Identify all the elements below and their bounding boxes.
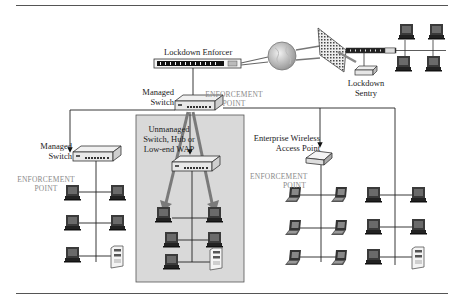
- desktop-icon: [410, 219, 427, 235]
- managed-switch-left-label: Managed Switch: [38, 141, 72, 161]
- enforcement-point-line1: ENFORCEMENT: [202, 90, 266, 99]
- enforcement-point-line2: POINT: [14, 184, 78, 193]
- enforcement-point-label-left: ENFORCEMENT POINT: [14, 175, 78, 193]
- desktop-icon: [365, 187, 382, 203]
- desktop-icon: [365, 249, 382, 265]
- desktop-icon: [365, 219, 382, 235]
- managed-switch-left-label-line2: Switch: [38, 151, 72, 161]
- desktop-icon: [163, 232, 180, 248]
- managed-switch-top-label: Managed Switch: [138, 87, 174, 107]
- desktop-icon: [206, 207, 223, 223]
- desktop-icon: [398, 24, 415, 40]
- laptop-icon: [331, 187, 347, 202]
- server-icon: [412, 247, 424, 269]
- managed-switch-top-label-line2: Switch: [138, 97, 174, 107]
- desktop-icon: [395, 56, 412, 72]
- enforcement-point-label-right: ENFORCEMENT POINT: [250, 172, 306, 190]
- desktop-icon: [155, 207, 172, 223]
- lockdown-sentry-label: Lockdown Sentry: [342, 78, 390, 98]
- lockdown-enforcer-label: Lockdown Enforcer: [164, 47, 232, 57]
- desktop-icon: [109, 215, 126, 231]
- lockdown-sentry-label-line1: Lockdown: [342, 78, 390, 88]
- wireless-access-point: [306, 151, 332, 165]
- managed-switch-left: [73, 146, 121, 161]
- desktop-icon: [163, 254, 180, 270]
- wireless-access-point-label-line1: Enterprise Wireless: [252, 133, 320, 143]
- unmanaged-device-label-line1: Unmanaged: [139, 124, 199, 134]
- laptop-icon: [331, 220, 347, 235]
- lockdown-sentry-label-line2: Sentry: [342, 88, 390, 98]
- desktop-icon: [410, 187, 427, 203]
- enforcement-point-label-top: ENFORCEMENT POINT: [202, 90, 266, 108]
- enforcement-point-line2: POINT: [250, 181, 306, 190]
- laptop-icon: [285, 220, 301, 235]
- enforcement-point-line2: POINT: [202, 99, 266, 108]
- firewall-icon: [318, 28, 346, 72]
- unmanaged-device-label-line2: Switch, Hub or: [139, 134, 199, 144]
- desktop-icon: [64, 215, 81, 231]
- lockdown-sentry-device: [355, 66, 377, 75]
- wireless-access-point-label-line2: Access Point: [252, 143, 320, 153]
- server-icon: [210, 248, 222, 270]
- unmanaged-device-label: Unmanaged Switch, Hub or Low-end WAP: [139, 124, 199, 154]
- desktop-icon: [109, 185, 126, 201]
- managed-switch-top-label-line1: Managed: [138, 87, 174, 97]
- desktop-icon: [64, 247, 81, 263]
- managed-switch-left-label-line1: Managed: [38, 141, 72, 151]
- server-icon: [111, 246, 123, 268]
- laptop-icon: [285, 250, 301, 265]
- unmanaged-device-label-line3: Low-end WAP: [139, 144, 199, 154]
- internet-globe-icon: [268, 42, 296, 70]
- enforcement-point-line1: ENFORCEMENT: [250, 172, 306, 181]
- laptop-icon: [331, 250, 347, 265]
- wireless-access-point-label: Enterprise Wireless Access Point: [252, 133, 320, 153]
- enforcement-point-line1: ENFORCEMENT: [14, 175, 78, 184]
- desktop-icon: [428, 24, 445, 40]
- desktop-icon: [425, 56, 442, 72]
- lockdown-enforcer-device: [154, 59, 241, 68]
- desktop-icon: [206, 232, 223, 248]
- unmanaged-switch: [172, 156, 220, 171]
